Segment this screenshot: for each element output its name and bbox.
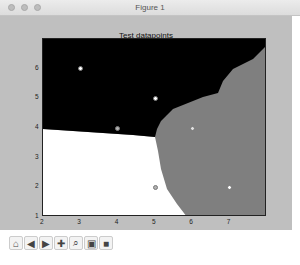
data-point xyxy=(190,126,195,131)
data-point xyxy=(153,185,158,190)
pan-button[interactable]: ✚ xyxy=(54,236,68,250)
y-tick-label: 6 xyxy=(35,64,39,71)
window-edge xyxy=(292,16,300,230)
x-tick-label: 6 xyxy=(189,218,193,225)
subplots-button[interactable]: ▣ xyxy=(84,236,98,250)
y-tick-label: 4 xyxy=(35,123,39,130)
save-button[interactable]: ■ xyxy=(99,236,113,250)
back-button[interactable]: ◀ xyxy=(24,236,38,250)
y-tick-label: 2 xyxy=(35,182,39,189)
save-icon: ■ xyxy=(103,238,109,249)
home-button[interactable]: ⌂ xyxy=(9,236,23,250)
home-icon: ⌂ xyxy=(13,238,19,249)
forward-button[interactable]: ▶ xyxy=(39,236,53,250)
data-point xyxy=(227,185,232,190)
x-tick-label: 7 xyxy=(227,218,231,225)
data-point xyxy=(115,126,120,131)
data-point xyxy=(78,66,83,71)
x-tick-label: 4 xyxy=(115,218,119,225)
y-tick-label: 3 xyxy=(35,153,39,160)
forward-arrow-icon: ▶ xyxy=(42,238,50,249)
x-tick-label: 3 xyxy=(77,218,81,225)
zoom-button[interactable]: ⌕ xyxy=(69,236,83,250)
x-tick-label: 2 xyxy=(40,218,44,225)
x-tick-label: 5 xyxy=(152,218,156,225)
navigation-toolbar: ⌂◀▶✚⌕▣■ xyxy=(0,232,300,265)
back-arrow-icon: ◀ xyxy=(27,238,35,249)
window-titlebar: Figure 1 xyxy=(0,0,300,16)
y-tick-label: 5 xyxy=(35,93,39,100)
window-title: Figure 1 xyxy=(0,3,300,12)
plot-axes xyxy=(42,38,266,216)
data-point xyxy=(153,96,158,101)
y-tick-label: 1 xyxy=(35,212,39,219)
pan-icon: ✚ xyxy=(57,238,65,249)
subplots-config-icon: ▣ xyxy=(87,238,96,249)
zoom-rect-icon: ⌕ xyxy=(73,237,79,249)
